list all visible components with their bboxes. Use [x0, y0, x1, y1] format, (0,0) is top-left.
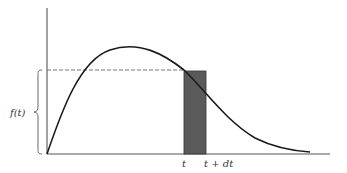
- pdf-diagram: f(t) t t + dt: [0, 0, 347, 173]
- t-plus-dt-label: t + dt: [204, 158, 234, 169]
- density-curve: [47, 47, 310, 154]
- probability-strip: [184, 71, 206, 154]
- t-label: t: [182, 158, 187, 169]
- y-value-label: f(t): [9, 107, 26, 118]
- height-brace: [34, 70, 42, 154]
